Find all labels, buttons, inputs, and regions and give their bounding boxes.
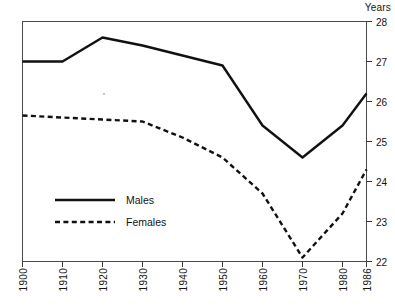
legend-label-males: Males xyxy=(126,194,154,206)
scan-artifact xyxy=(103,93,105,95)
legend-label-females: Females xyxy=(126,216,166,228)
x-tick-label: 1900 xyxy=(18,268,29,291)
x-tick-label: 1950 xyxy=(218,268,229,291)
x-tick-label: 1970 xyxy=(298,268,309,291)
legend-swatches xyxy=(55,200,115,222)
plot-area xyxy=(0,0,395,306)
x-tick-label: 1986 xyxy=(362,268,373,291)
series-line-females xyxy=(23,116,367,258)
x-tick-label: 1980 xyxy=(338,268,349,291)
x-tick-label: 1930 xyxy=(138,268,149,291)
x-tick-label: 1920 xyxy=(98,268,109,291)
y-tick-label: 27 xyxy=(376,56,387,67)
data-series-layer xyxy=(23,38,367,258)
x-tick-label: 1940 xyxy=(178,268,189,291)
y-tick-label: 25 xyxy=(376,136,387,147)
y-tick-label: 28 xyxy=(376,16,387,27)
chart-figure: Years 28272625242322 1900191019201930194… xyxy=(0,0,395,306)
y-tick-label: 23 xyxy=(376,216,387,227)
x-tick-label: 1910 xyxy=(58,268,69,291)
x-tick-label: 1960 xyxy=(258,268,269,291)
y-tick-label: 26 xyxy=(376,96,387,107)
series-line-males xyxy=(23,38,367,158)
y-tick-label: 24 xyxy=(376,176,387,187)
y-axis-unit-label: Years xyxy=(365,2,391,13)
y-tick-label: 22 xyxy=(376,256,387,267)
